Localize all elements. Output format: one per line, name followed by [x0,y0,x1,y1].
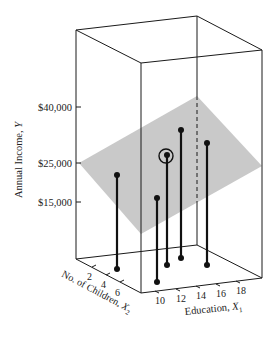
x1-tick-label: 12 [176,293,186,304]
y-axis-tick-labels: $40,000 $25,000 $15,000 [38,102,72,208]
y-axis-ticks [76,107,81,202]
y-axis-label: Annual Income, Y [13,121,24,198]
y-tick-label: $15,000 [38,197,72,208]
y-tick-label: $25,000 [38,158,72,169]
y-tick-label: $40,000 [38,102,72,113]
regression-plane [79,96,262,234]
3d-regression-chart: $40,000 $25,000 $15,000 Annual Income, Y… [0,0,277,337]
x2-axis-label: No. of Children, X2 [59,268,135,317]
x1-tick-label: 10 [155,295,165,306]
x1-tick-label: 14 [196,290,206,301]
x1-tick-label: 16 [216,288,226,299]
x1-tick-label: 18 [236,285,246,296]
x1-axis-label: Education, X1 [184,300,243,320]
